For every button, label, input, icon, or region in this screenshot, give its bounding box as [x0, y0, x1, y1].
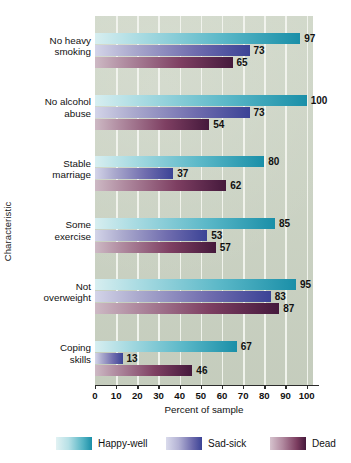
category-label-line: skills [16, 354, 91, 366]
x-axis-tick [222, 385, 223, 389]
bar-dead [95, 303, 279, 314]
bar-dead [95, 365, 192, 376]
category-label-line: Some [16, 219, 91, 231]
category-label-line: Stable [16, 158, 91, 170]
bar-happy [95, 279, 296, 290]
gridline [307, 16, 308, 385]
category-label-line: Coping [16, 342, 91, 354]
bar-value-label: 85 [279, 218, 290, 229]
bar-sad [95, 353, 123, 364]
bar-dead [95, 180, 226, 191]
category-label-line: overweight [16, 292, 91, 304]
x-axis-tick [243, 385, 244, 389]
legend-label: Happy-well [98, 438, 147, 449]
category-label-line: No heavy [16, 35, 91, 47]
x-axis-tick [307, 385, 308, 389]
legend-item-dead[interactable]: Dead [270, 436, 336, 450]
bar-value-label: 13 [127, 353, 138, 364]
legend-item-sad[interactable]: Sad-sick [166, 436, 246, 450]
x-axis-title: Percent of sample [95, 404, 313, 415]
plot-area [95, 16, 313, 385]
y-axis-title-text: Characteristic [3, 202, 14, 261]
bar-value-label: 97 [304, 33, 315, 44]
legend-label: Dead [312, 438, 336, 449]
category-label: No heavysmoking [16, 35, 91, 58]
x-axis-tick [264, 385, 265, 389]
bar-happy [95, 33, 300, 44]
x-axis-tick-label: 0 [92, 390, 97, 401]
category-label: Notoverweight [16, 281, 91, 304]
bar-dead [95, 242, 216, 253]
bar-value-label: 57 [220, 242, 231, 253]
legend-swatch-happy [56, 437, 92, 450]
gridline [158, 16, 159, 385]
bar-value-label: 73 [254, 45, 265, 56]
x-axis-tick [137, 385, 138, 389]
bar-value-label: 54 [213, 119, 224, 130]
y-axis-title: Characteristic [0, 0, 16, 463]
x-axis-tick-label: 20 [132, 390, 143, 401]
bar-value-label: 87 [283, 303, 294, 314]
gridline [264, 16, 265, 385]
x-axis-tick-label: 100 [299, 390, 315, 401]
bar-value-label: 65 [237, 57, 248, 68]
category-label-line: smoking [16, 46, 91, 58]
bar-happy [95, 156, 264, 167]
bar-sad [95, 230, 207, 241]
gridline [137, 16, 138, 385]
bar-value-label: 83 [275, 291, 286, 302]
x-axis-tick [180, 385, 181, 389]
chart-legend: Happy-wellSad-sickDead [18, 436, 338, 456]
category-label: Copingskills [16, 342, 91, 365]
legend-swatch-sad [166, 437, 202, 450]
gridline [243, 16, 244, 385]
bar-happy [95, 218, 275, 229]
bar-value-label: 95 [300, 279, 311, 290]
gridline [285, 16, 286, 385]
bar-value-label: 46 [196, 365, 207, 376]
category-label: Stablemarriage [16, 158, 91, 181]
bar-value-label: 67 [241, 341, 252, 352]
bar-happy [95, 341, 237, 352]
gridline [180, 16, 181, 385]
legend-item-happy[interactable]: Happy-well [56, 436, 147, 450]
x-axis-tick-label: 90 [280, 390, 291, 401]
bar-sad [95, 45, 250, 56]
gridline [201, 16, 202, 385]
bar-value-label: 100 [311, 95, 328, 106]
bar-happy [95, 95, 307, 106]
category-label-line: Not [16, 281, 91, 293]
legend-label: Sad-sick [208, 438, 246, 449]
category-label-line: exercise [16, 231, 91, 243]
x-axis-tick-label: 70 [238, 390, 249, 401]
bar-value-label: 62 [230, 180, 241, 191]
bar-sad [95, 168, 173, 179]
x-axis-tick [158, 385, 159, 389]
bar-dead [95, 57, 233, 68]
x-axis-tick-label: 10 [111, 390, 122, 401]
x-axis-tick [95, 385, 96, 389]
x-axis-tick-label: 60 [217, 390, 228, 401]
bar-sad [95, 291, 271, 302]
gridline [116, 16, 117, 385]
bar-dead [95, 119, 209, 130]
category-label: No alcoholabuse [16, 96, 91, 119]
category-label-line: marriage [16, 169, 91, 181]
x-axis-tick-label: 80 [259, 390, 270, 401]
x-axis-tick-label: 30 [153, 390, 164, 401]
bar-value-label: 73 [254, 107, 265, 118]
bar-sad [95, 107, 250, 118]
bar-value-label: 80 [268, 156, 279, 167]
x-axis-tick-label: 50 [195, 390, 206, 401]
bar-value-label: 53 [211, 230, 222, 241]
category-label-line: No alcohol [16, 96, 91, 108]
category-label: Someexercise [16, 219, 91, 242]
x-axis-tick [116, 385, 117, 389]
x-axis-tick [285, 385, 286, 389]
category-label-line: abuse [16, 108, 91, 120]
legend-swatch-dead [270, 437, 306, 450]
bar-chart-figure: Characteristic No heavysmokingNo alcohol… [0, 0, 351, 463]
category-label-column: No heavysmokingNo alcoholabuseStablemarr… [16, 16, 93, 385]
gridline [222, 16, 223, 385]
bar-value-label: 37 [177, 168, 188, 179]
